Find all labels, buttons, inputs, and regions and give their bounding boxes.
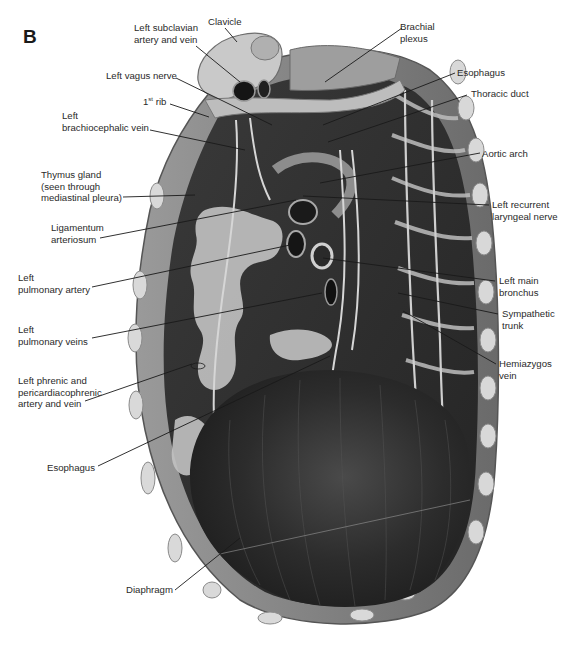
label-left-vagus-nerve: Left vagus nerve: [106, 70, 177, 82]
subclavian-artery-art: [233, 81, 255, 101]
label-left-main-bronchus: Left main bronchus: [499, 275, 538, 298]
label-hemiazygos-vein: Hemiazygos vein: [499, 358, 552, 381]
label-thymus-gland: Thymus gland (seen through mediastinal p…: [41, 169, 122, 204]
label-clavicle: Clavicle: [208, 16, 242, 28]
label-left-subclavian-artery-vein: Left subclavian artery and vein: [134, 22, 198, 45]
label-brachial-plexus: Brachial plexus: [400, 21, 435, 44]
label-aortic-arch: Aortic arch: [482, 148, 528, 160]
label-thoracic-duct: Thoracic duct: [471, 88, 529, 100]
label-left-pulmonary-veins: Left pulmonary veins: [18, 324, 88, 347]
label-esophagus-bottom: Esophagus: [47, 462, 95, 474]
label-left-brachiocephalic-vein: Left brachiocephalic vein: [62, 110, 149, 133]
pulmonary-vein-art: [287, 231, 305, 257]
pulmonary-artery-art: [289, 200, 317, 224]
subclavian-vein-art: [258, 80, 270, 98]
lower-pulmonary-vein-art: [325, 279, 337, 305]
label-ligamentum-arteriosum: Ligamentum arteriosum: [51, 222, 104, 245]
label-left-phrenic-pericardiacophrenic: Left phrenic and pericardiacophrenic art…: [18, 375, 102, 410]
panel-letter: B: [23, 26, 37, 48]
label-diaphragm: Diaphragm: [126, 584, 173, 596]
bronchus-art: [312, 244, 332, 268]
label-left-recurrent-laryngeal-nerve: Left recurrent laryngeal nerve: [492, 199, 558, 222]
label-left-pulmonary-artery: Left pulmonary artery: [18, 272, 90, 295]
label-esophagus-top: Esophagus: [457, 67, 505, 79]
anatomy-figure: B Left subclavian artery and vein Clavic…: [0, 0, 575, 647]
label-first-rib: 1st rib: [143, 96, 166, 108]
label-sympathetic-trunk: Sympathetic trunk: [502, 308, 555, 331]
